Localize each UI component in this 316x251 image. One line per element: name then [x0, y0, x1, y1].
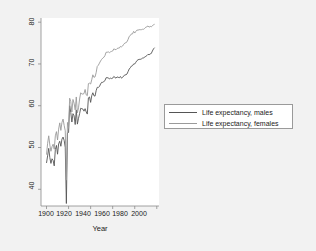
ytick-label-60: 60 — [28, 96, 35, 112]
legend-entry-females: Life expectancy, females — [169, 118, 279, 129]
xtick-label-2000: 2000 — [127, 210, 151, 217]
xaxis-title: Year — [35, 224, 165, 233]
ytick-label-40: 40 — [28, 178, 35, 194]
chart-legend: Life expectancy, males Life expectancy, … — [164, 104, 293, 129]
legend-swatch-females — [169, 123, 197, 124]
legend-label-males: Life expectancy, males — [202, 108, 273, 117]
ytick-label-50: 50 — [28, 137, 35, 153]
chart-figure: 80 70 60 50 40 1900 1920 1940 1960 1980 … — [0, 0, 316, 251]
legend-label-females: Life expectancy, females — [202, 119, 279, 128]
legend-swatch-males — [169, 112, 197, 113]
ytick-label-70: 70 — [28, 55, 35, 71]
ytick-label-80: 80 — [28, 14, 35, 30]
legend-entry-males: Life expectancy, males — [169, 107, 273, 118]
